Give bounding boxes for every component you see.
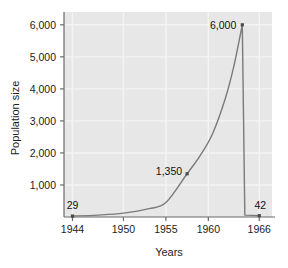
y-tick-label: 4,000 xyxy=(30,83,56,95)
x-tick-label: 1966 xyxy=(248,223,272,235)
y-tick-label: 2,000 xyxy=(30,147,56,159)
x-tick-label: 1960 xyxy=(197,223,221,235)
y-axis-title: Population size xyxy=(9,81,21,156)
chart-figure: 1,0002,0003,0004,0005,0006,000 194419501… xyxy=(0,0,288,268)
data-point-marker xyxy=(241,23,244,26)
y-axis-tick-labels: 1,0002,0003,0004,0005,0006,000 xyxy=(30,19,56,191)
y-tick-label: 3,000 xyxy=(30,115,56,127)
population-line-chart: 1,0002,0003,0004,0005,0006,000 194419501… xyxy=(0,0,288,268)
x-axis-tick-labels: 19441950195519601966 xyxy=(61,223,271,235)
y-tick-label: 6,000 xyxy=(30,19,56,31)
data-point-marker xyxy=(186,172,189,175)
y-tick-label: 1,000 xyxy=(30,179,56,191)
y-tick-label: 5,000 xyxy=(30,51,56,63)
data-point-marker xyxy=(258,214,261,217)
annotation-label: 6,000 xyxy=(210,19,236,31)
x-tick-label: 1950 xyxy=(112,223,136,235)
x-tick-label: 1955 xyxy=(154,223,178,235)
x-axis-title: Years xyxy=(155,246,183,258)
annotation-label: 29 xyxy=(67,199,79,211)
data-point-marker xyxy=(71,214,74,217)
annotation-label: 1,350 xyxy=(156,165,182,177)
x-axis-ticks xyxy=(72,217,259,221)
x-tick-label: 1944 xyxy=(61,223,85,235)
annotation-label: 42 xyxy=(254,199,266,211)
plot-area-background xyxy=(64,12,272,217)
